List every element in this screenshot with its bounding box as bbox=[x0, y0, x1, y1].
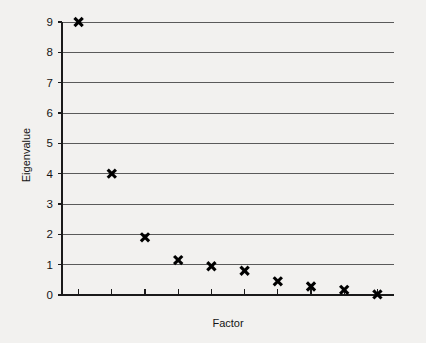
y-tick-label: 5 bbox=[47, 137, 53, 149]
y-tick-label: 6 bbox=[47, 107, 53, 119]
y-axis-label: Eigenvalue bbox=[20, 128, 32, 182]
y-tick-label: 4 bbox=[47, 168, 54, 180]
x-axis-label: Factor bbox=[212, 317, 244, 329]
y-tick-label: 1 bbox=[47, 259, 53, 271]
y-tick-label: 3 bbox=[47, 198, 53, 210]
y-tick-label: 0 bbox=[47, 289, 53, 301]
y-tick-label: 8 bbox=[47, 46, 53, 58]
y-tick-label: 9 bbox=[47, 16, 53, 28]
y-tick-label: 7 bbox=[47, 77, 53, 89]
scree-plot-figure: 0123456789 Factor Eigenvalue bbox=[0, 0, 426, 343]
chart-canvas: 0123456789 Factor Eigenvalue bbox=[0, 0, 426, 343]
chart-background bbox=[0, 0, 426, 343]
y-tick-label: 2 bbox=[47, 228, 53, 240]
